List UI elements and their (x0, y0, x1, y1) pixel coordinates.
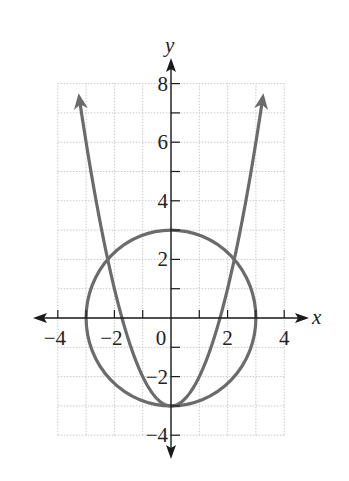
x-tick-label: −4 (44, 326, 67, 350)
tick-labels: −4−2024−4−22468xy (44, 33, 322, 447)
y-tick-label: 6 (158, 130, 169, 154)
y-tick-label: −2 (146, 365, 168, 389)
x-tick-label: −2 (100, 326, 122, 350)
y-tick-label: 4 (158, 189, 169, 213)
x-tick-label: 2 (222, 326, 233, 350)
y-tick-label: 2 (158, 247, 169, 271)
graph-plot: −4−2024−4−22468xy (0, 0, 349, 481)
x-tick-label: 4 (279, 326, 290, 350)
axes (33, 58, 309, 459)
x-tick-label: 0 (156, 326, 167, 350)
y-axis-label: y (163, 33, 175, 57)
x-axis-label: x (311, 305, 322, 329)
y-tick-label: 8 (158, 72, 169, 96)
y-tick-label: −4 (146, 423, 169, 447)
